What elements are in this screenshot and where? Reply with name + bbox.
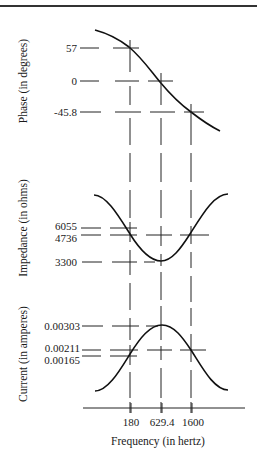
- phase-label-neg45: -45.8: [54, 106, 77, 118]
- current-axis-title: Current (in amperes): [17, 306, 30, 402]
- phase-label-0: 0: [72, 75, 78, 87]
- impedance-axis-title: Impedance (in ohms): [17, 179, 30, 277]
- x-tick-label-629: 629.4: [150, 416, 175, 428]
- phase-label-57: 57: [66, 42, 78, 54]
- current-label-00211: 0.00211: [45, 342, 80, 354]
- current-label-00303: 0.00303: [44, 320, 80, 332]
- impedance-panel: Impedance (in ohms) 6055 4736 3300: [17, 179, 228, 277]
- x-axis: 180 629.4 1600 Frequency (in hertz): [83, 403, 245, 448]
- phase-axis-title: Phase (in degrees): [17, 39, 30, 123]
- current-panel: Current (in amperes) 0.00303 0.00211 0.0…: [17, 306, 228, 402]
- current-label-00165: 0.00165: [44, 354, 80, 366]
- phase-panel: Phase (in degrees) 57 0 -45.8: [17, 30, 220, 131]
- impedance-label-4736: 4736: [55, 232, 78, 244]
- impedance-label-3300: 3300: [55, 256, 78, 268]
- x-axis-title: Frequency (in hertz): [111, 435, 205, 448]
- x-tick-label-180: 180: [123, 416, 140, 428]
- x-tick-label-1600: 1600: [182, 416, 205, 428]
- impedance-label-6055: 6055: [55, 220, 78, 232]
- resonance-diagram: Phase (in degrees) 57 0 -45.8: [0, 0, 257, 465]
